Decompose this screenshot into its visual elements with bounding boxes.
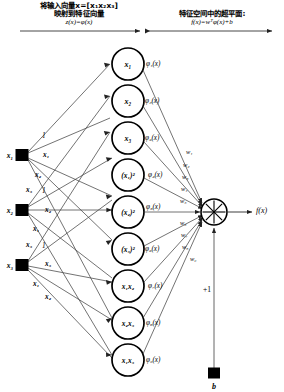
weight-label-7: w₇	[181, 231, 187, 238]
phi-label-7: φ₇(x)	[148, 282, 162, 290]
weight-label-6: w₆	[180, 219, 186, 226]
bias-node-label: b	[212, 382, 216, 391]
weight-label-4: w₄	[181, 185, 187, 192]
input-node-x1[interactable]	[16, 149, 29, 161]
weight-label-2: w₂	[183, 161, 189, 168]
phi-label-2: φ₂(x)	[145, 97, 159, 105]
weight-label-8: w₈	[182, 243, 188, 250]
feature-node-label-6: (x₃)²	[121, 245, 134, 254]
feature-node-label-4: (x₁)²	[121, 171, 134, 180]
edge-label-x3-1: 1	[42, 241, 46, 250]
edge-label-x1-1: 1	[42, 131, 46, 140]
edge-label-x1-c: x₃	[26, 185, 32, 194]
feature-node-label-3: x₃	[125, 134, 132, 143]
phi-label-9: φ₉(x)	[146, 356, 160, 364]
edge-label-x2-a: x₂	[45, 205, 51, 214]
feature-node-label-8: x₂x₃	[122, 319, 135, 328]
phi-label-8: φ₈(x)	[146, 319, 160, 327]
input-node-x3[interactable]	[16, 259, 29, 271]
weight-label-5: w₅	[180, 197, 186, 204]
summation-node	[201, 199, 227, 225]
diagram-canvas	[0, 0, 284, 392]
feature-to-output-edges	[143, 70, 203, 354]
input-to-feature-edges	[28, 64, 112, 358]
input-node-label-x3: x₃	[7, 261, 13, 270]
input-node-label-x2: x₂	[7, 206, 13, 215]
phi-label-1: φ₁(x)	[146, 60, 160, 68]
edge-label-x2-1: 1	[42, 186, 46, 195]
weight-label-1: w₁	[186, 148, 192, 155]
weight-label-3: w₃	[182, 173, 188, 180]
output-label: f(x)	[256, 206, 267, 215]
bias-node[interactable]	[208, 368, 220, 379]
edge-label-x2-c: x₃	[26, 240, 32, 249]
feature-node-label-5: (x₂)²	[121, 208, 134, 217]
edge-label-x3-c: x₂	[45, 292, 51, 301]
feature-node-label-9: x₁x₃	[122, 356, 135, 365]
svm-feature-map-diagram: 将输入向量x=[x₁x₂x₃] 映射到特征向量 z(x)=φ(x) 特征空间中的…	[0, 0, 284, 392]
edge-label-x3-a: x₃	[45, 259, 51, 268]
phi-label-3: φ₃(x)	[145, 134, 159, 142]
weight-label-9: w₉	[190, 255, 196, 262]
edge-label-x2-b: x₁	[33, 224, 39, 233]
feature-node-label-1: x₁	[125, 60, 132, 69]
input-node-x2[interactable]	[16, 204, 29, 216]
header-rules	[20, 29, 272, 34]
edge-label-x3-b: x₁	[33, 279, 39, 288]
edge-label-x1-b: x₂	[35, 170, 41, 179]
input-node-label-x1: x₁	[7, 151, 13, 160]
edge-label-x1-a: x₁	[43, 150, 49, 159]
feature-node-label-7: x₁x₂	[122, 282, 135, 291]
feature-node-label-2: x₂	[125, 97, 132, 106]
phi-label-6: φ₆(x)	[145, 245, 159, 253]
bias-edge-label: +1	[203, 285, 211, 294]
phi-label-4: φ₄(x)	[148, 171, 162, 179]
phi-label-5: φ₅(x)	[146, 203, 160, 211]
